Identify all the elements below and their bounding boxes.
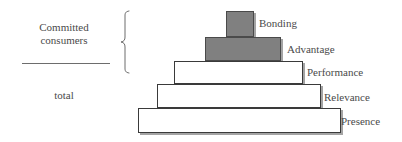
pyramid-tier-label-presence: Presence (341, 115, 380, 128)
pyramid-tier-advantage[interactable] (205, 37, 281, 61)
pyramid-tier-label-advantage: Advantage (287, 43, 335, 56)
pyramid-diagram: Committed consumers total BondingAdvanta… (0, 0, 402, 142)
pyramid-tier-relevance[interactable] (157, 84, 321, 108)
pyramid-tier-bonding[interactable] (226, 11, 254, 37)
pyramid-tier-label-performance: Performance (307, 66, 363, 79)
pyramid-tier-presence[interactable] (138, 108, 341, 133)
pyramid-stack: BondingAdvantagePerformanceRelevancePres… (0, 0, 402, 142)
pyramid-tier-label-bonding: Bonding (259, 17, 297, 30)
pyramid-tier-performance[interactable] (174, 61, 303, 84)
pyramid-tier-label-relevance: Relevance (324, 91, 370, 104)
